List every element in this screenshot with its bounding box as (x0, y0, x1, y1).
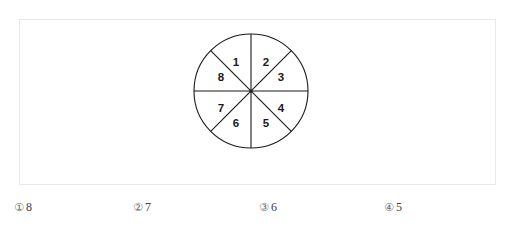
answer-options: ①8 ②7 ③6 ④5 (0, 199, 514, 223)
sector-label-6: 6 (233, 117, 239, 129)
sector-label-2: 2 (263, 56, 269, 68)
answer-option-1[interactable]: ①8 (14, 199, 32, 216)
sector-label-5: 5 (263, 117, 270, 129)
option-marker-4: ④ (384, 201, 394, 214)
center-point-dot (249, 89, 252, 92)
sector-label-1: 1 (233, 56, 240, 68)
sector-label-4: 4 (278, 102, 285, 114)
sector-label-7: 7 (218, 102, 224, 114)
option-marker-2: ② (133, 201, 143, 214)
sector-label-3: 3 (278, 71, 284, 83)
answer-option-4[interactable]: ④5 (384, 199, 402, 216)
option-marker-3: ③ (259, 201, 269, 214)
wheel-svg: 1 2 3 4 5 6 7 8 (192, 32, 310, 150)
figure-frame: 1 2 3 4 5 6 7 8 (19, 19, 496, 185)
option-value-3: 6 (271, 200, 277, 214)
option-value-4: 5 (396, 200, 402, 214)
option-marker-1: ① (14, 201, 24, 214)
sector-label-8: 8 (218, 71, 225, 83)
answer-option-3[interactable]: ③6 (259, 199, 277, 216)
option-value-2: 7 (145, 200, 151, 214)
answer-option-2[interactable]: ②7 (133, 199, 151, 216)
option-value-1: 8 (26, 200, 32, 214)
page-root: 1 2 3 4 5 6 7 8 ①8 ②7 ③6 ④5 (0, 0, 514, 234)
pie-wheel-figure: 1 2 3 4 5 6 7 8 (192, 32, 310, 150)
